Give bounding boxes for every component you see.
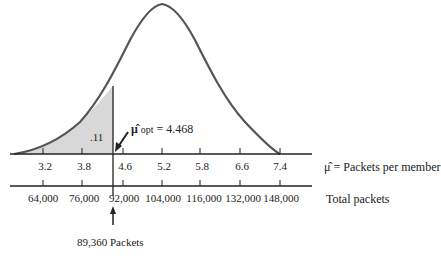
bottom-tick-label: 148,000 (263, 192, 299, 204)
top-tick-label: 4.6 (118, 160, 132, 172)
optimum-label: μ̂ opt = 4.468 (131, 122, 193, 137)
bottom-tick-label: 104,000 (145, 192, 181, 204)
bottom-axis-label: Total packets (326, 192, 389, 207)
top-tick-label: 5.8 (195, 160, 209, 172)
top-tick-label: 6.6 (235, 160, 249, 172)
top-tick-label: 7.4 (273, 160, 287, 172)
bottom-ticks (43, 180, 280, 186)
bottom-tick-label: 116,000 (186, 192, 221, 204)
bottom-tick-label: 92,000 (109, 192, 139, 204)
top-tick-label: 3.2 (38, 160, 52, 172)
bottom-tick-label: 64,000 (28, 192, 58, 204)
bottom-tick-label: 132,000 (225, 192, 261, 204)
optimum-arrow-icon (115, 132, 128, 152)
bottom-tick-label: 76,000 (69, 192, 99, 204)
packets-annotation: 89,360 Packets (77, 236, 144, 248)
top-tick-label: 3.8 (77, 160, 91, 172)
shaded-area-label: .11 (90, 131, 103, 143)
packets-arrow-icon (110, 206, 116, 225)
top-tick-label: 5.2 (157, 160, 171, 172)
top-axis-label: μ̂ = Packets per member (324, 160, 441, 175)
